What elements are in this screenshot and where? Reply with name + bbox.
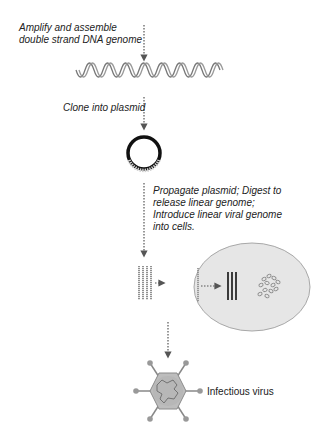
propagate-line-2: release linear genome; [153, 197, 282, 209]
virus-icon [133, 360, 203, 422]
step-amplify-label: Amplify and assemble double strand DNA g… [19, 22, 142, 46]
step-propagate-label: Propagate plasmid; Digest to release lin… [153, 185, 282, 233]
dna-helix-icon [76, 63, 223, 77]
amplify-line-2: double strand DNA genome [19, 34, 142, 46]
step-clone-label: Clone into plasmid [63, 102, 145, 114]
step-virus-label: Infectious virus [207, 386, 274, 398]
propagate-line-1: Propagate plasmid; Digest to [153, 185, 282, 197]
plasmid-icon [128, 137, 160, 170]
cell-icon [194, 243, 310, 331]
linear-genome-strands-icon [139, 266, 151, 300]
amplify-line-1: Amplify and assemble [19, 22, 142, 34]
propagate-line-4: into cells. [153, 221, 282, 233]
propagate-line-3: Introduce linear viral genome [153, 209, 282, 221]
